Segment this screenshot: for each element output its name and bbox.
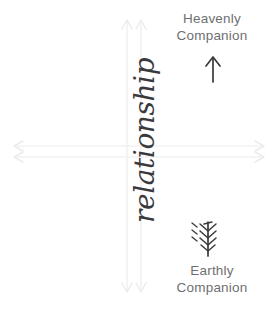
arrow-tail-cap bbox=[204, 222, 212, 224]
arrow-nock-mark-2 bbox=[192, 230, 197, 234]
arrow-nock-mark-3 bbox=[192, 237, 197, 241]
earthly-companion-label: Earthly Companion bbox=[154, 262, 270, 296]
arrow-fletch-right-4 bbox=[208, 245, 215, 251]
arrow-fletch-left-1 bbox=[200, 224, 208, 231]
heavenly-companion-label-line1: Heavenly bbox=[154, 10, 270, 27]
arrow-fletch-left-4 bbox=[201, 245, 208, 251]
arrow-fletch-right-1 bbox=[208, 224, 216, 231]
earthly-companion-label-line2: Companion bbox=[154, 279, 270, 296]
diagram-canvas: relationship Heavenly Companion Earthly … bbox=[0, 0, 274, 314]
arrow-fletch-right-2 bbox=[208, 231, 216, 238]
arrow-fletch-right-3 bbox=[208, 238, 216, 245]
relationship-label: relationship bbox=[128, 63, 162, 223]
arrow-fletch-left-2 bbox=[200, 231, 208, 238]
heavenly-companion-label-line2: Companion bbox=[154, 27, 270, 44]
heavenly-companion-label: Heavenly Companion bbox=[154, 10, 270, 44]
arrow-nock-mark-1 bbox=[192, 223, 197, 227]
earthly-companion-label-line1: Earthly bbox=[154, 262, 270, 279]
arrow-fletch-left-3 bbox=[200, 238, 208, 245]
